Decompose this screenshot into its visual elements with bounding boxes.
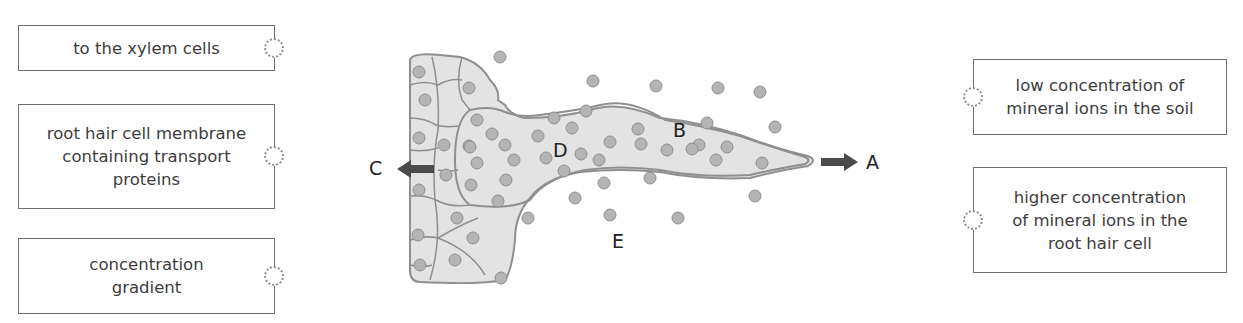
arrow-a-right [821, 153, 858, 171]
label-a: A [866, 151, 879, 173]
label-b: B [673, 119, 686, 141]
label-d: D [553, 139, 568, 161]
label-c: C [369, 157, 382, 179]
label-e: E [612, 230, 624, 252]
root-hair-diagram [0, 0, 1243, 323]
